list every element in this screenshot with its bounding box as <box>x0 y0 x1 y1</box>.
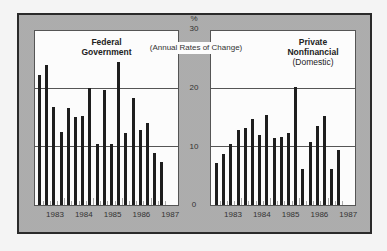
bar <box>287 133 290 206</box>
gridline-10 <box>211 146 355 147</box>
bar <box>103 90 106 205</box>
y-tick-10: 10 <box>181 142 207 151</box>
year-label: 1986 <box>129 210 153 219</box>
bar <box>60 132 63 205</box>
private-nonfinancial-panel: PrivateNonfinancial(Domestic) <box>210 30 356 206</box>
gridline-10 <box>35 146 178 147</box>
axis-tick <box>299 198 300 205</box>
axis-tick <box>165 201 166 205</box>
bar <box>74 117 77 205</box>
year-label: 1983 <box>221 210 245 219</box>
axis-tick <box>335 201 336 205</box>
y-unit-label: % <box>181 14 207 23</box>
bar <box>244 128 247 205</box>
axis-tick <box>256 201 257 205</box>
axis-tick <box>100 201 101 205</box>
bar <box>330 169 333 205</box>
bar <box>229 144 232 205</box>
axis-tick <box>107 201 108 205</box>
year-label: 1986 <box>307 210 331 219</box>
bar <box>337 150 340 205</box>
bar <box>117 62 120 205</box>
axis-tick <box>320 201 321 205</box>
bar <box>38 75 41 205</box>
axis-tick <box>263 201 264 205</box>
bar <box>146 123 149 205</box>
axis-tick <box>71 201 72 205</box>
bar <box>124 133 127 205</box>
federal-government-panel: FederalGovernment <box>34 30 179 206</box>
bar <box>153 153 156 205</box>
bar <box>52 107 55 205</box>
axis-tick <box>313 201 314 205</box>
axis-tick <box>136 201 137 205</box>
bar <box>316 126 319 205</box>
bar <box>215 163 218 205</box>
bar <box>88 88 91 205</box>
axis-tick <box>143 201 144 205</box>
bar <box>273 138 276 205</box>
axis-tick <box>50 201 51 205</box>
private-title: PrivateNonfinancial(Domestic) <box>271 37 355 67</box>
bar <box>45 65 48 205</box>
chart-subtitle: (Annual Rates of Change) <box>146 42 246 54</box>
bar <box>160 162 163 206</box>
bar <box>110 144 113 205</box>
axis-tick <box>277 201 278 205</box>
axis-tick <box>122 198 123 205</box>
axis-tick <box>248 201 249 205</box>
bar <box>81 116 84 205</box>
gridline-20 <box>211 88 355 89</box>
axis-tick <box>43 201 44 205</box>
bar <box>258 135 261 205</box>
axis-tick <box>158 201 159 205</box>
axis-tick <box>64 198 65 205</box>
axis-tick <box>93 198 94 205</box>
bar <box>323 116 326 205</box>
bar <box>265 115 268 205</box>
axis-tick <box>115 201 116 205</box>
bar <box>132 98 135 205</box>
bar <box>280 137 283 205</box>
y-tick-20: 20 <box>181 83 207 92</box>
year-label: 1984 <box>250 210 274 219</box>
axis-tick <box>270 198 271 205</box>
axis-tick <box>292 201 293 205</box>
axis-tick <box>342 201 343 205</box>
axis-tick <box>151 198 152 205</box>
year-label: 1987 <box>158 210 182 219</box>
axis-tick <box>220 201 221 205</box>
year-label: 1985 <box>101 210 125 219</box>
bar <box>251 119 254 205</box>
bar <box>139 130 142 205</box>
y-tick-0: 0 <box>181 200 207 209</box>
bar <box>237 130 240 205</box>
axis-tick <box>328 198 329 205</box>
axis-tick <box>57 201 58 205</box>
bar <box>301 169 304 205</box>
bar <box>96 144 99 205</box>
bar <box>309 142 312 205</box>
bar <box>67 108 70 205</box>
axis-tick <box>79 201 80 205</box>
year-label: 1985 <box>279 210 303 219</box>
axis-tick <box>227 201 228 205</box>
gridline-20 <box>35 88 178 89</box>
year-label: 1984 <box>72 210 96 219</box>
year-label: 1983 <box>43 210 67 219</box>
axis-tick <box>284 201 285 205</box>
bar <box>294 87 297 205</box>
axis-tick <box>306 201 307 205</box>
axis-tick <box>86 201 87 205</box>
axis-tick <box>241 198 242 205</box>
axis-tick <box>129 201 130 205</box>
bar <box>222 154 225 205</box>
axis-tick <box>234 201 235 205</box>
year-label: 1987 <box>336 210 360 219</box>
y-tick-30: 30 <box>181 24 207 33</box>
